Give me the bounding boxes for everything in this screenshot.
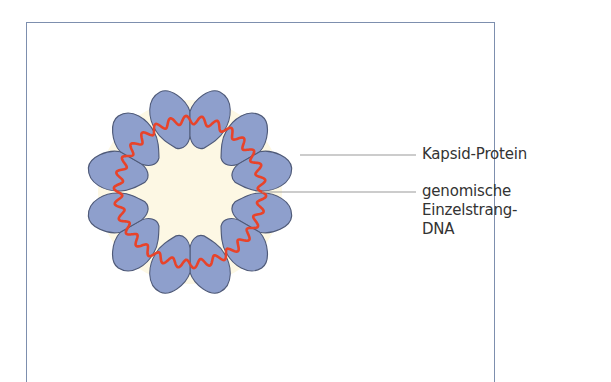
label-line: DNA [422, 220, 517, 239]
label-capsid-protein: Kapsid-Protein [422, 145, 527, 164]
label-ssdna: genomische Einzelstrang- DNA [422, 182, 517, 239]
label-line: Einzelstrang- [422, 201, 517, 220]
label-line: genomische [422, 182, 517, 201]
label-line: Kapsid-Protein [422, 145, 527, 164]
